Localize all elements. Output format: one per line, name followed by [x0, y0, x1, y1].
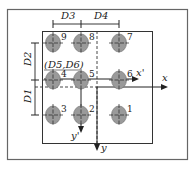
hole-4: 4: [43, 69, 67, 91]
dimension-d1-d2: D2 D1: [22, 43, 39, 115]
hole-6: 6: [109, 69, 133, 91]
hole-3: 3: [43, 104, 67, 126]
hole-label: 7: [127, 32, 133, 42]
hole-1: 1: [109, 104, 133, 126]
label-y: y: [100, 142, 107, 153]
label-x-prime: x': [136, 67, 144, 78]
hole-label: 8: [89, 32, 95, 42]
label-d2: D2: [22, 52, 33, 67]
hole-label: 1: [127, 104, 133, 114]
hole-group: 123456789: [43, 32, 133, 126]
hole-7: 7: [109, 32, 133, 54]
dimension-d3-d4: D3 D4: [53, 10, 119, 28]
hole-label: 4: [61, 69, 67, 79]
label-x: x: [162, 72, 168, 83]
label-d1: D1: [22, 89, 33, 104]
label-y-prime: y': [70, 130, 79, 141]
diagram-canvas: D3 D4 D2 D1 (D5,D6) x' x y' y 123456789: [0, 0, 194, 170]
hole-9: 9: [43, 32, 67, 54]
hole-label: 3: [61, 104, 67, 114]
hole-label: 2: [89, 104, 95, 114]
hole-8: 8: [71, 32, 95, 54]
hole-label: 6: [127, 69, 133, 79]
hole-5: 5: [71, 69, 95, 91]
hole-label: 5: [89, 69, 95, 79]
hole-label: 9: [61, 32, 67, 42]
hole-2: 2: [71, 104, 95, 126]
label-d3: D3: [60, 10, 75, 21]
label-d4: D4: [93, 10, 108, 21]
